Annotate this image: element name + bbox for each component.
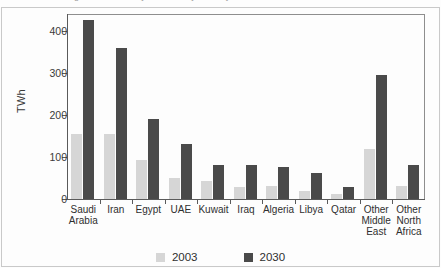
category-tick-mark	[295, 199, 296, 204]
category-label: OtherMiddleEast	[360, 204, 393, 238]
category-label: Qatar	[327, 204, 360, 215]
chart-page: Figure 1 Electricity demand by country 0…	[0, 0, 441, 268]
bar-2003	[234, 187, 245, 199]
bar-2003	[364, 149, 375, 199]
y-axis-ticks: 0100200300400	[0, 0, 67, 214]
legend-swatch-icon	[156, 253, 165, 262]
bar-2030	[83, 20, 94, 199]
bar-2030	[246, 165, 257, 199]
bar-group	[197, 14, 230, 199]
y-axis-tick-label: 400	[15, 26, 67, 36]
bar-2003	[299, 191, 310, 199]
category-tick-mark	[230, 199, 231, 204]
bar-group	[262, 14, 295, 199]
bar-2030	[408, 165, 419, 199]
category-tick-mark	[360, 199, 361, 204]
category-label: OtherNorthAfrica	[392, 204, 425, 238]
bar-2003	[201, 181, 212, 199]
bar-group	[67, 14, 100, 199]
caption-remnant-text: Figure 1 Electricity demand by country	[66, 0, 230, 1]
bar-2030	[213, 165, 224, 199]
category-label: Kuwait	[197, 204, 230, 215]
bar-group	[230, 14, 263, 199]
bar-group	[100, 14, 133, 199]
bar-2003	[396, 186, 407, 199]
legend-label: 2003	[172, 252, 198, 263]
category-label: UAE	[165, 204, 198, 215]
category-label: Egypt	[132, 204, 165, 215]
bar-2030	[181, 144, 192, 199]
bar-2003	[331, 194, 342, 199]
y-axis-tick-label: 0	[15, 194, 67, 204]
category-label: SaudiArabia	[67, 204, 100, 226]
bar-2003	[136, 160, 147, 199]
chart-legend: 20032030	[0, 249, 441, 265]
bar-group	[392, 14, 425, 199]
category-tick-mark	[262, 199, 263, 204]
bar-group	[165, 14, 198, 199]
category-label: Libya	[295, 204, 328, 215]
bar-2003	[169, 178, 180, 199]
bar-group	[327, 14, 360, 199]
legend-item-2003[interactable]: 2003	[156, 252, 198, 263]
bar-2003	[104, 134, 115, 199]
bar-group	[360, 14, 393, 199]
bar-2030	[376, 75, 387, 199]
legend-swatch-icon	[244, 253, 253, 262]
y-axis-tick-label: 100	[15, 152, 67, 162]
category-tick-mark	[197, 199, 198, 204]
x-axis-line	[67, 199, 425, 200]
bar-2030	[148, 119, 159, 199]
category-tick-mark	[132, 199, 133, 204]
bar-2030	[343, 187, 354, 199]
category-label: Algeria	[262, 204, 295, 215]
bar-group	[132, 14, 165, 199]
legend-item-2030[interactable]: 2030	[244, 252, 286, 263]
category-tick-mark	[100, 199, 101, 204]
legend-label: 2030	[260, 252, 286, 263]
category-tick-mark	[392, 199, 393, 204]
bar-2030	[311, 173, 322, 199]
bar-2003	[71, 134, 82, 199]
bar-2003	[266, 186, 277, 199]
y-axis-title: TWh	[15, 71, 27, 131]
bar-group	[295, 14, 328, 199]
category-label: Iran	[100, 204, 133, 215]
category-labels: SaudiArabiaIranEgyptUAEKuwaitIraqAlgeria…	[67, 204, 425, 248]
bars-layer	[67, 14, 425, 199]
bar-2030	[116, 48, 127, 199]
bar-2030	[278, 167, 289, 199]
category-label: Iraq	[230, 204, 263, 215]
category-tick-mark	[327, 199, 328, 204]
category-tick-mark	[165, 199, 166, 204]
